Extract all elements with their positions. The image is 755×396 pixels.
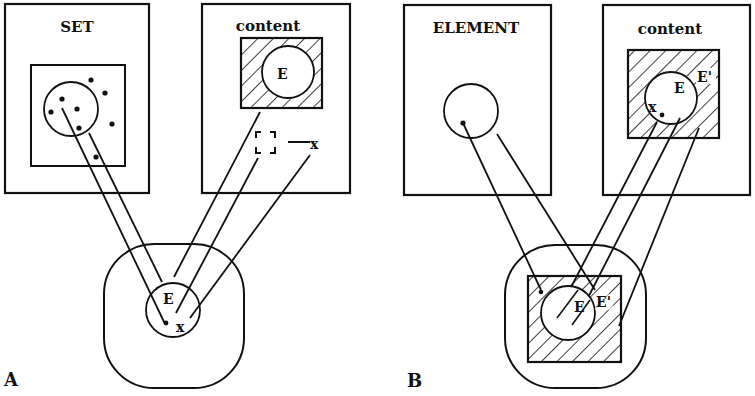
set-title: SET <box>60 18 94 36</box>
result-label-e: E <box>163 291 174 307</box>
result-structure-a: E x <box>104 244 244 388</box>
result-structure-b: E E' <box>505 245 646 388</box>
panel-a: SET content E <box>3 4 350 390</box>
complement-label-e-prime: E' <box>697 69 712 85</box>
dashed-bracket-icon <box>256 132 275 153</box>
result-label-e-prime: E' <box>596 294 611 310</box>
projection-lines-a <box>62 108 310 324</box>
content-box-b: content E E' x <box>603 5 750 195</box>
panel-b: ELEMENT content E E' x <box>404 5 750 391</box>
result-label-x: x <box>176 319 185 335</box>
panel-label-a: A <box>3 369 19 390</box>
content-box-a: content E x <box>202 4 350 193</box>
element-title: ELEMENT <box>433 19 520 37</box>
result-label-e-b: E <box>574 299 585 315</box>
element-box: ELEMENT <box>404 5 551 195</box>
content-title-a: content <box>236 17 300 35</box>
circle-label-e-b: E <box>674 80 685 96</box>
set-box: SET <box>5 4 149 193</box>
panel-label-b: B <box>407 370 422 391</box>
point-label-x-b: x <box>648 99 657 115</box>
diagram-canvas: SET content E <box>0 0 755 396</box>
point-label-x: x <box>310 136 319 152</box>
circle-label-e: E <box>277 66 288 82</box>
content-title-b: content <box>638 20 702 38</box>
